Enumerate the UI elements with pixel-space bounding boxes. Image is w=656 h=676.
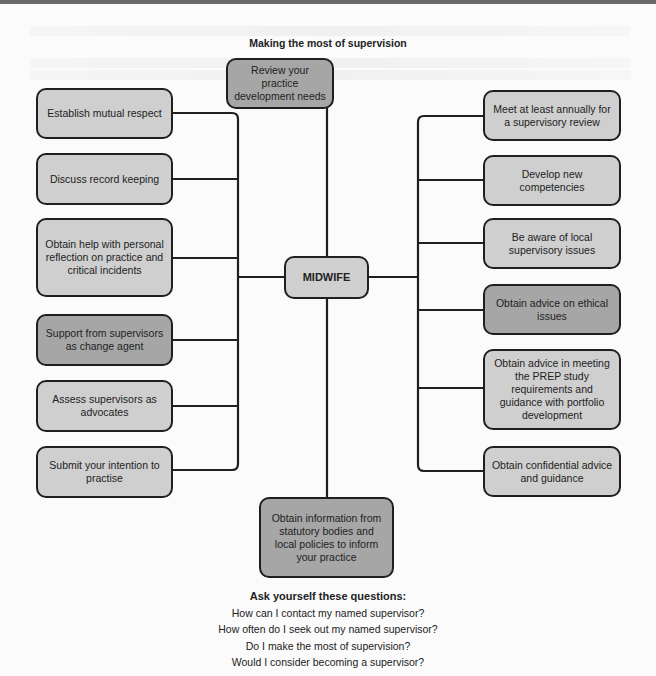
- node-label: Support from supervisors as change agent: [44, 327, 165, 353]
- node-assess-supervisors: Assess supervisors as advocates: [36, 380, 173, 432]
- node-label: Obtain confidential advice and guidance: [491, 459, 613, 485]
- node-review-practice-needs: Review your practice development needs: [226, 58, 334, 109]
- node-label: Obtain advice on ethical issues: [491, 297, 613, 323]
- center-node-label: MIDWIFE: [303, 271, 351, 284]
- questions-heading: Ask yourself these questions:: [0, 590, 656, 602]
- node-local-supervisory-issues: Be aware of local supervisory issues: [483, 218, 621, 269]
- node-meet-annually: Meet at least annually for a supervisory…: [483, 90, 621, 141]
- node-label: Obtain advice in meeting the PREP study …: [491, 357, 613, 422]
- node-support-change-agent: Support from supervisors as change agent: [36, 314, 173, 366]
- node-label: Assess supervisors as advocates: [44, 393, 165, 419]
- question-item: Do I make the most of supervision?: [0, 638, 656, 654]
- node-label: Develop new competencies: [491, 168, 613, 194]
- question-item: How can I contact my named supervisor?: [0, 605, 656, 621]
- node-label: Discuss record keeping: [50, 173, 159, 186]
- node-discuss-record-keeping: Discuss record keeping: [36, 153, 173, 205]
- node-establish-mutual-respect: Establish mutual respect: [36, 88, 173, 139]
- node-submit-intention: Submit your intention to practise: [36, 446, 173, 498]
- node-label: Review your practice development needs: [234, 64, 326, 103]
- node-personal-reflection: Obtain help with personal reflection on …: [36, 218, 173, 297]
- center-node-midwife: MIDWIFE: [284, 256, 369, 299]
- node-develop-competencies: Develop new competencies: [483, 155, 621, 206]
- node-ethical-issues: Obtain advice on ethical issues: [483, 284, 621, 335]
- node-prep-requirements: Obtain advice in meeting the PREP study …: [483, 349, 621, 430]
- questions-section: Ask yourself these questions: How can I …: [0, 590, 656, 670]
- node-label: Be aware of local supervisory issues: [491, 231, 613, 257]
- node-label: Obtain help with personal reflection on …: [44, 238, 165, 277]
- node-label: Meet at least annually for a supervisory…: [491, 103, 613, 129]
- node-label: Submit your intention to practise: [44, 459, 165, 485]
- node-label: Establish mutual respect: [47, 107, 161, 120]
- node-obtain-information: Obtain information from statutory bodies…: [259, 497, 394, 578]
- node-label: Obtain information from statutory bodies…: [267, 512, 386, 564]
- question-item: Would I consider becoming a supervisor?: [0, 654, 656, 670]
- node-confidential-advice: Obtain confidential advice and guidance: [483, 446, 621, 497]
- question-item: How often do I seek out my named supervi…: [0, 621, 656, 637]
